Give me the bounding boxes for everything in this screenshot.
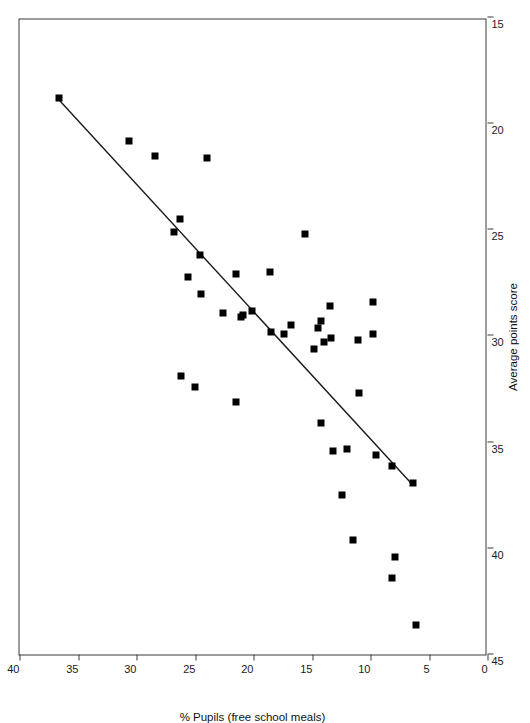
data-point	[310, 345, 317, 352]
data-point	[369, 330, 376, 337]
data-point	[267, 328, 274, 335]
y-tick-label: 35	[65, 662, 77, 674]
y-tick-label: 15	[299, 662, 311, 674]
y-tick	[487, 654, 488, 660]
y-tick	[429, 654, 430, 660]
data-point	[125, 137, 132, 144]
y-tick-label: 20	[241, 662, 253, 674]
data-point	[184, 273, 191, 280]
data-point	[329, 447, 336, 454]
data-point	[232, 398, 239, 405]
y-tick-label: 10	[358, 662, 370, 674]
data-point	[301, 230, 308, 237]
data-point	[349, 536, 356, 543]
y-tick-label: 0	[481, 662, 487, 674]
y-tick	[195, 654, 196, 660]
y-tick-label: 40	[7, 662, 19, 674]
data-point	[196, 251, 203, 258]
x-tick-label: 15	[491, 17, 503, 29]
x-tick-label: 40	[491, 548, 503, 560]
x-tick-label: 45	[491, 654, 503, 666]
data-point	[355, 389, 362, 396]
data-point	[388, 574, 395, 581]
y-tick-label: 5	[422, 662, 428, 674]
y-axis-title: % Pupils (free school meals)	[18, 709, 486, 723]
data-point	[219, 309, 226, 316]
data-point	[232, 270, 239, 277]
x-tick-label: 30	[491, 336, 503, 348]
data-point	[55, 94, 62, 101]
data-point	[372, 451, 379, 458]
data-point	[409, 479, 416, 486]
y-tick-label: 30	[124, 662, 136, 674]
y-tick	[19, 654, 20, 660]
x-tick-label: 25	[491, 229, 503, 241]
data-point	[317, 419, 324, 426]
data-point	[197, 290, 204, 297]
y-tick	[312, 654, 313, 660]
data-point	[343, 445, 350, 452]
data-point	[203, 154, 210, 161]
data-point	[287, 321, 294, 328]
data-point	[237, 313, 244, 320]
data-point	[191, 383, 198, 390]
data-point	[327, 334, 334, 341]
y-tick	[253, 654, 254, 660]
x-tick-label: 35	[491, 442, 503, 454]
plot-area: 15202530354045 0510152025303540	[18, 18, 486, 655]
data-point	[326, 302, 333, 309]
y-tick	[78, 654, 79, 660]
y-tick	[370, 654, 371, 660]
data-point	[280, 330, 287, 337]
x-axis-title: Average points score	[506, 18, 518, 655]
data-point	[388, 462, 395, 469]
data-point	[170, 228, 177, 235]
data-point	[151, 152, 158, 159]
data-point	[248, 307, 255, 314]
y-tick	[136, 654, 137, 660]
x-tick-label: 20	[491, 123, 503, 135]
data-point	[369, 298, 376, 305]
data-point	[177, 372, 184, 379]
data-point	[266, 268, 273, 275]
data-point	[391, 553, 398, 560]
data-point	[354, 336, 361, 343]
rotated-chart-group: 15202530354045 0510152025303540 Average …	[0, 0, 530, 723]
data-point	[317, 317, 324, 324]
data-point	[412, 621, 419, 628]
data-point	[176, 215, 183, 222]
y-tick-label: 25	[182, 662, 194, 674]
trendline	[19, 19, 485, 654]
data-point	[338, 491, 345, 498]
data-point	[320, 338, 327, 345]
figure-canvas: 15202530354045 0510152025303540 Average …	[0, 0, 530, 723]
